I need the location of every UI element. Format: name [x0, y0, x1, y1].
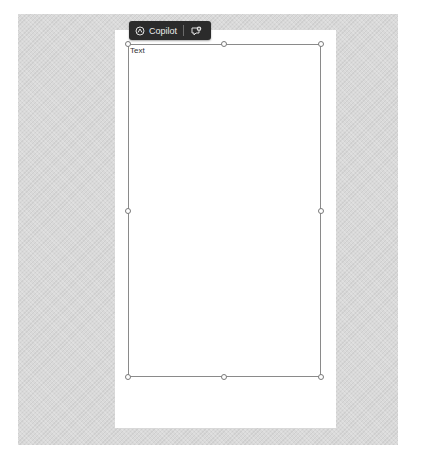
resize-handle-bottom-left[interactable] [125, 374, 131, 380]
resize-handle-top-left[interactable] [125, 41, 131, 47]
copilot-button[interactable]: Copilot [129, 21, 183, 40]
copilot-label: Copilot [149, 26, 177, 36]
resize-handle-bottom-center[interactable] [221, 374, 227, 380]
resize-handle-middle-right[interactable] [318, 208, 324, 214]
copilot-icon [135, 26, 145, 36]
new-comment-icon [191, 26, 202, 36]
new-comment-button[interactable] [184, 21, 208, 40]
floating-toolbar: Copilot [129, 21, 211, 40]
text-box-content[interactable]: Text [130, 46, 145, 55]
resize-handle-top-center[interactable] [221, 41, 227, 47]
resize-handle-bottom-right[interactable] [318, 374, 324, 380]
text-box[interactable]: Text [128, 44, 321, 377]
resize-handle-middle-left[interactable] [125, 208, 131, 214]
resize-handle-top-right[interactable] [318, 41, 324, 47]
